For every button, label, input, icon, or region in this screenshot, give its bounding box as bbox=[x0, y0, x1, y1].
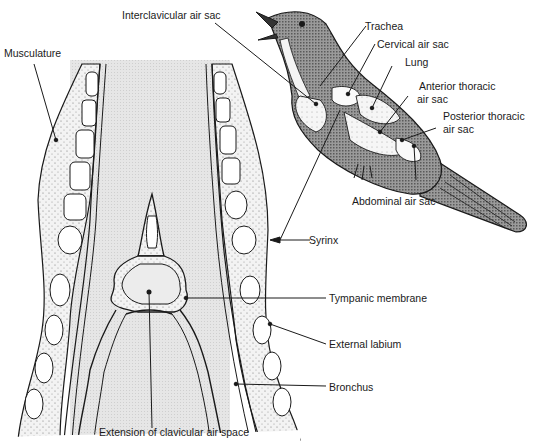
bird-beak bbox=[256, 12, 278, 28]
label-posterior-thoracic-2: air sac bbox=[443, 123, 474, 135]
label-musculature: Musculature bbox=[4, 47, 61, 59]
label-external-labium: External labium bbox=[329, 338, 401, 350]
label-abdominal-air-sac: Abdominal air sac bbox=[352, 195, 435, 207]
label-syrinx: Syrinx bbox=[309, 234, 338, 246]
label-trachea: Trachea bbox=[365, 20, 403, 32]
label-bronchus: Bronchus bbox=[329, 381, 373, 393]
syrinx-section bbox=[0, 60, 300, 448]
label-interclavicular-air-sac: Interclavicular air sac bbox=[122, 9, 221, 21]
label-anterior-thoracic-2: air sac bbox=[417, 93, 448, 105]
label-anterior-thoracic-1: Anterior thoracic bbox=[419, 80, 495, 92]
label-tympanic-membrane: Tympanic membrane bbox=[329, 292, 427, 304]
tympanic-membrane bbox=[122, 264, 180, 304]
bird-eye bbox=[299, 21, 305, 27]
label-posterior-thoracic-1: Posterior thoracic bbox=[443, 110, 525, 122]
syrinx-diagram bbox=[0, 0, 538, 448]
label-lung: Lung bbox=[405, 56, 428, 68]
label-cervical-air-sac: Cervical air sac bbox=[377, 38, 449, 50]
label-extension-clavicular-air-space: Extension of clavicular air space bbox=[99, 426, 249, 438]
